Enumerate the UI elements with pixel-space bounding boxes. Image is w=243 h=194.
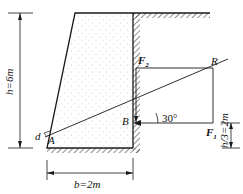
diagram-svg — [0, 0, 243, 194]
height-label: h=6m — [4, 68, 15, 96]
angle-label: 30° — [162, 113, 177, 124]
point-a-label: A — [48, 135, 55, 146]
force1-label: F1 — [206, 127, 217, 141]
base-label: b=2m — [73, 179, 101, 190]
ground-hatch — [47, 148, 140, 153]
force2-label: F2 — [138, 55, 149, 69]
resultant-label: R — [211, 56, 218, 67]
soil-hatch-vertical — [133, 13, 140, 153]
third-height-label: h/3=2m — [219, 113, 230, 148]
wall-body — [47, 13, 133, 148]
distance-label: d — [35, 131, 41, 142]
soil-hatch-top — [133, 13, 210, 18]
point-b-label: B — [122, 116, 129, 127]
angle-arc — [156, 113, 158, 123]
diagram-canvas: h=6m b=2m h/3=2m F2 F1 R B A d 30° — [0, 0, 243, 194]
